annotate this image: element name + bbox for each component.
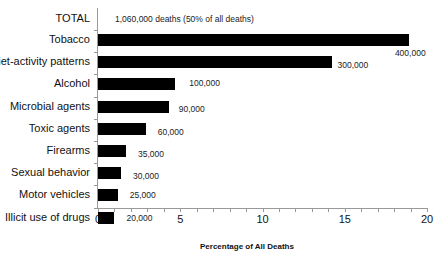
- y-tick: [94, 141, 97, 142]
- x-tick: [246, 208, 247, 212]
- category-label: Firearms: [47, 144, 90, 157]
- x-tick: [328, 208, 329, 212]
- y-tick: [94, 119, 97, 120]
- bar: [98, 189, 118, 201]
- category-label: Sexual behavior: [11, 166, 90, 179]
- category-label: Diet-activity patterns: [0, 55, 90, 68]
- x-tick: [98, 208, 99, 212]
- category-label: Tobacco: [49, 33, 90, 46]
- x-tick: [164, 208, 165, 212]
- x-tick: [361, 208, 362, 212]
- x-tick-label: 15: [339, 213, 351, 225]
- y-tick: [94, 97, 97, 98]
- y-tick: [94, 208, 97, 209]
- x-tick: [378, 208, 379, 212]
- x-tick: [394, 208, 395, 212]
- bar: [98, 56, 332, 68]
- x-tick: [213, 208, 214, 212]
- y-tick: [94, 163, 97, 164]
- category-label: Microbial agents: [10, 100, 90, 113]
- value-annotation: 30,000: [133, 171, 159, 181]
- bar: [98, 167, 121, 179]
- y-tick: [94, 52, 97, 53]
- total-label: TOTAL: [56, 12, 90, 25]
- y-tick: [94, 74, 97, 75]
- value-annotation: 300,000: [338, 60, 369, 70]
- bar: [98, 78, 175, 90]
- x-tick: [230, 208, 231, 212]
- category-label: Motor vehicles: [19, 188, 90, 201]
- bar: [98, 123, 146, 135]
- x-tick: [180, 208, 181, 212]
- x-tick-label: 0: [95, 213, 101, 225]
- horizontal-bar-chart: TOTAL 1,060,000 deaths (50% of all death…: [0, 0, 439, 262]
- x-tick: [263, 208, 264, 212]
- bar: [98, 145, 126, 157]
- value-annotation: 25,000: [130, 190, 156, 200]
- total-annotation: 1,060,000 deaths (50% of all deaths): [115, 14, 254, 24]
- bar: [98, 34, 409, 46]
- x-tick: [131, 208, 132, 212]
- x-tick: [197, 208, 198, 212]
- x-tick: [345, 208, 346, 212]
- x-tick-label: 20: [421, 213, 433, 225]
- x-tick: [411, 208, 412, 212]
- y-tick: [94, 30, 97, 31]
- category-label: Illicit use of drugs: [5, 211, 90, 224]
- x-tick: [147, 208, 148, 212]
- value-annotation: 400,000: [395, 48, 426, 58]
- x-axis-title: Percentage of All Deaths: [200, 242, 294, 251]
- value-annotation: 20,000: [126, 213, 152, 223]
- category-label: Toxic agents: [29, 122, 90, 135]
- x-tick: [114, 208, 115, 212]
- value-annotation: 100,000: [189, 78, 220, 88]
- x-tick-label: 10: [256, 213, 268, 225]
- value-annotation: 35,000: [138, 149, 164, 159]
- category-label: Alcohol: [54, 77, 90, 90]
- value-annotation: 90,000: [179, 104, 205, 114]
- x-tick: [295, 208, 296, 212]
- x-tick: [279, 208, 280, 212]
- y-tick: [94, 185, 97, 186]
- value-annotation: 60,000: [158, 127, 184, 137]
- x-tick: [312, 208, 313, 212]
- x-tick-label: 5: [177, 213, 183, 225]
- bar: [98, 101, 169, 113]
- x-tick: [427, 208, 428, 212]
